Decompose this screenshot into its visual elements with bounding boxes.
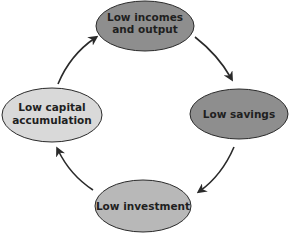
node-low-savings: Low savings [190, 89, 288, 139]
arrow-capital-to-incomes [58, 38, 95, 84]
arrow-incomes-to-savings [195, 37, 231, 78]
vicious-cycle-diagram: Low incomes and output Low savings Low i… [0, 0, 291, 234]
arrow-savings-to-investment [200, 147, 234, 191]
node-label-line-1: Low investment [96, 200, 190, 212]
node-label-line-2: and output [112, 23, 177, 35]
arrow-investment-to-capital [58, 150, 93, 190]
node-label-line-1: Low capital [18, 101, 85, 113]
node-low-capital-accumulation: Low capital accumulation [2, 88, 102, 142]
node-label-line-1: Low incomes [107, 11, 183, 23]
node-low-incomes-and-output: Low incomes and output [96, 1, 194, 51]
node-label-line-2: accumulation [12, 114, 91, 126]
node-label-line-1: Low savings [203, 108, 275, 120]
node-low-investment: Low investment [95, 180, 191, 232]
